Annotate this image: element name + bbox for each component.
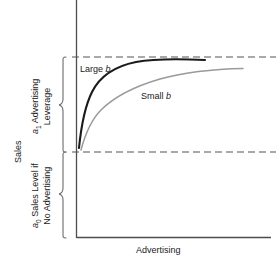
lower-brace-symbol: a <box>30 223 40 228</box>
lower-brace-line2: No Advertising <box>42 163 52 228</box>
small-b-label-prefix: Small <box>141 91 164 101</box>
x-axis-label: Advertising <box>136 245 181 255</box>
small-b-curve <box>81 69 243 151</box>
lower-brace-line1: Sales Level if <box>30 163 40 217</box>
upper-brace-line2: Leverage <box>42 79 52 134</box>
small-b-curve-label: Small b <box>141 91 171 101</box>
large-b-label-symbol: b <box>106 64 111 74</box>
lower-brace <box>59 152 66 238</box>
base-sales-level-label: a0 Sales Level if No Advertising <box>30 163 53 228</box>
advertising-leverage-label: a1 Advertising Leverage <box>30 79 53 134</box>
lower-brace-subscript: 0 <box>35 219 42 223</box>
upper-brace-subscript: 1 <box>35 125 42 129</box>
upper-brace-symbol: a <box>30 129 40 134</box>
upper-brace-line1: Advertising <box>30 79 40 124</box>
y-axis-label: Sales <box>13 140 23 163</box>
upper-brace <box>59 57 66 152</box>
large-b-label-prefix: Large <box>80 64 103 74</box>
large-b-curve-label: Large b <box>80 64 111 74</box>
small-b-label-symbol: b <box>166 91 171 101</box>
